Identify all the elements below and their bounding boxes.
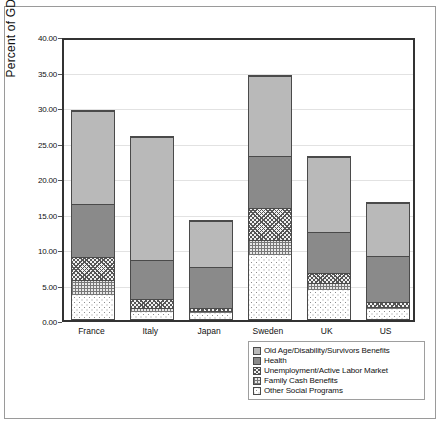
bar-segment bbox=[190, 313, 232, 319]
gridline bbox=[64, 287, 413, 288]
y-tick-label: 35.00 bbox=[11, 69, 57, 78]
legend-item[interactable]: Unemployment/Active Labor Market bbox=[253, 366, 420, 375]
legend-item[interactable]: Health bbox=[253, 356, 420, 365]
bar-segment bbox=[308, 232, 350, 273]
legend-swatch-icon bbox=[253, 367, 261, 375]
bar-segment bbox=[131, 299, 173, 309]
y-tick-label: 10.00 bbox=[11, 247, 57, 256]
y-tick-label: 5.00 bbox=[11, 282, 57, 291]
bar-segment bbox=[190, 221, 232, 268]
legend-swatch-icon bbox=[253, 387, 261, 395]
bar-segment bbox=[72, 204, 114, 257]
y-tick-label: 40.00 bbox=[11, 34, 57, 43]
legend-swatch-icon bbox=[253, 357, 261, 365]
bar-segment bbox=[249, 156, 291, 207]
legend-swatch-icon bbox=[253, 347, 261, 355]
bar-segment bbox=[308, 290, 350, 319]
bar-sweden[interactable] bbox=[248, 75, 292, 320]
bar-segment bbox=[249, 240, 291, 255]
y-tick-label: 25.00 bbox=[11, 140, 57, 149]
bar-segment bbox=[249, 76, 291, 156]
bar-france[interactable] bbox=[71, 110, 115, 320]
x-tick-label: Japan bbox=[179, 326, 239, 336]
bar-segment bbox=[308, 157, 350, 232]
legend-label: Unemployment/Active Labor Market bbox=[264, 366, 388, 375]
legend-label: Other Social Programs bbox=[264, 386, 343, 395]
y-tick-label: 15.00 bbox=[11, 211, 57, 220]
bar-segment bbox=[249, 208, 291, 240]
bar-segment bbox=[72, 257, 114, 280]
chart-figure: Percent of GDP 0.005.0010.0015.0020.0025… bbox=[0, 0, 443, 431]
bar-segment bbox=[72, 295, 114, 319]
gridline bbox=[64, 180, 413, 181]
bar-segment bbox=[367, 309, 409, 319]
bar-italy[interactable] bbox=[130, 136, 174, 320]
bar-segment bbox=[308, 273, 350, 283]
legend-item[interactable]: Family Cash Benefits bbox=[253, 376, 420, 385]
x-tick-label: Sweden bbox=[238, 326, 298, 336]
y-tick-label: 20.00 bbox=[11, 176, 57, 185]
y-tick-label: 0.00 bbox=[11, 318, 57, 327]
x-tick-label: UK bbox=[297, 326, 357, 336]
bar-segment bbox=[72, 280, 114, 295]
bar-uk[interactable] bbox=[307, 156, 351, 320]
bar-segment bbox=[131, 260, 173, 299]
legend-label: Family Cash Benefits bbox=[264, 376, 338, 385]
legend-item[interactable]: Other Social Programs bbox=[253, 386, 420, 395]
bar-segment bbox=[72, 111, 114, 204]
legend-swatch-icon bbox=[253, 377, 261, 385]
bar-segment bbox=[308, 283, 350, 290]
bar-segment bbox=[190, 267, 232, 307]
gridline bbox=[64, 74, 413, 75]
gridline bbox=[64, 251, 413, 252]
bar-us[interactable] bbox=[366, 202, 410, 320]
bar-segment bbox=[367, 203, 409, 256]
chart-legend: Old Age/Disability/Survivors BenefitsHea… bbox=[248, 341, 425, 400]
legend-label: Health bbox=[264, 356, 287, 365]
plot-area bbox=[62, 38, 415, 322]
legend-label: Old Age/Disability/Survivors Benefits bbox=[264, 346, 390, 355]
y-tick-label: 30.00 bbox=[11, 105, 57, 114]
x-tick-label: Italy bbox=[120, 326, 180, 336]
gridline bbox=[64, 145, 413, 146]
bar-segment bbox=[367, 256, 409, 302]
x-tick-label: France bbox=[61, 326, 121, 336]
y-tick-mark bbox=[58, 322, 62, 323]
x-tick-label: US bbox=[356, 326, 416, 336]
bar-japan[interactable] bbox=[189, 220, 233, 320]
bar-segment bbox=[131, 312, 173, 319]
gridline bbox=[64, 216, 413, 217]
bar-segment bbox=[249, 255, 291, 319]
legend-item[interactable]: Old Age/Disability/Survivors Benefits bbox=[253, 346, 420, 355]
y-axis-title: Percent of GDP bbox=[4, 0, 18, 104]
gridline bbox=[64, 109, 413, 110]
bar-segment bbox=[131, 137, 173, 260]
